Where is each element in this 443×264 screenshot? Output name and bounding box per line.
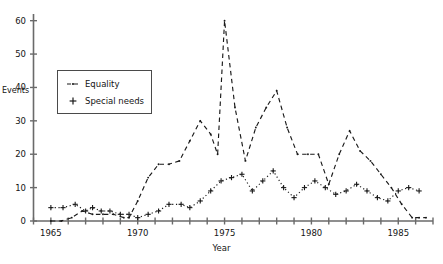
y-tick-label: 40	[4, 82, 26, 92]
line-chart-plot	[0, 0, 443, 264]
y-tick-label: 60	[4, 16, 26, 26]
x-tick-label: 1965	[31, 228, 71, 238]
y-tick-label: 30	[4, 116, 26, 126]
x-tick-label: 1980	[291, 228, 331, 238]
axis-lines	[33, 14, 433, 221]
legend-item-equality: Equality	[66, 78, 119, 90]
y-tick-label: 20	[4, 149, 26, 159]
legend-label-equality: Equality	[85, 79, 119, 89]
legend-label-special-needs: Special needs	[85, 96, 144, 106]
dotted-line-plus-marker-icon	[66, 96, 80, 106]
y-tick-label: 50	[4, 49, 26, 59]
series-equality	[50, 20, 427, 222]
y-tick-label: 10	[4, 183, 26, 193]
legend-item-special-needs: Special needs	[66, 95, 144, 107]
data-series-layer	[48, 20, 427, 222]
chart-legend: Equality Special needs	[57, 70, 152, 114]
series-special-needs	[48, 168, 421, 220]
chart-container: Events Year 0102030405060 19651970197519…	[0, 0, 443, 264]
x-axis-title: Year	[0, 243, 443, 253]
dashed-line-dot-marker-icon	[66, 79, 80, 89]
y-tick-label: 0	[4, 216, 26, 226]
x-tick-label: 1985	[378, 228, 418, 238]
x-tick-label: 1970	[118, 228, 158, 238]
x-tick-label: 1975	[205, 228, 245, 238]
